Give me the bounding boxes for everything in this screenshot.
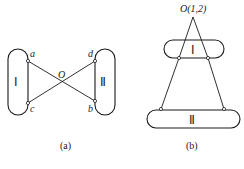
body-1-left	[8, 49, 28, 115]
pin-bottom-left	[159, 107, 162, 110]
body-2-label: Ⅱ	[189, 113, 195, 127]
kinematic-diagram: Ⅰ Ⅱ a c d b O (a) O(1,2) Ⅰ Ⅱ (b)	[0, 0, 244, 169]
link-right	[208, 58, 224, 109]
instant-center-o-label: O	[58, 69, 65, 80]
body-1-label: Ⅰ	[191, 43, 195, 57]
pin-a	[26, 59, 29, 62]
pin-top-left	[177, 56, 180, 59]
link-left	[161, 58, 179, 109]
body-2-label: Ⅱ	[100, 75, 106, 89]
pin-d	[93, 59, 96, 62]
figure-a: Ⅰ Ⅱ a c d b O (a)	[8, 48, 115, 152]
pin-b	[93, 99, 96, 102]
figure-b-caption: (b)	[186, 140, 198, 152]
point-c-label: c	[30, 103, 35, 114]
figure-b: O(1,2) Ⅰ Ⅱ (b)	[147, 3, 240, 152]
point-b-label: b	[88, 103, 93, 114]
body-1-label: Ⅰ	[14, 75, 18, 89]
pin-bottom-right	[222, 107, 225, 110]
figure-a-caption: (a)	[60, 140, 71, 152]
instant-center-o12-label: O(1,2)	[180, 3, 207, 15]
pin-top-right	[206, 56, 209, 59]
point-d-label: d	[88, 48, 94, 59]
point-a-label: a	[30, 48, 35, 59]
